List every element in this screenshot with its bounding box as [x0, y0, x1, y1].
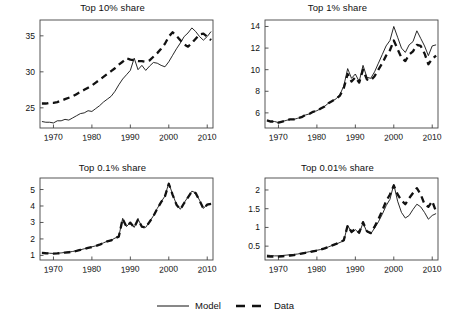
legend-entry-data: Data	[235, 301, 294, 311]
x-tick-label: 1970	[43, 131, 63, 142]
panel-top-1-share: Top 1% share 197019801990200020106810121…	[225, 0, 450, 160]
legend-label: Model	[195, 301, 221, 311]
y-tick-label: 25	[26, 103, 36, 113]
y-tick-label: 2	[30, 234, 35, 244]
series-data	[42, 32, 211, 103]
legend-swatch-solid	[156, 301, 190, 311]
series-data	[267, 185, 436, 256]
plot-frame	[265, 20, 438, 128]
y-tick-label: 1	[255, 222, 260, 232]
x-tick-label: 2000	[384, 131, 404, 142]
x-tick-label: 1980	[82, 131, 102, 142]
plot-frame	[40, 20, 213, 128]
y-tick-label: 12	[251, 43, 261, 53]
x-tick-label: 1990	[120, 131, 140, 142]
plot-frame	[265, 178, 438, 260]
y-tick-label: 1	[30, 250, 35, 260]
x-tick-label: 2010	[422, 263, 442, 274]
x-tick-label: 2000	[384, 263, 404, 274]
legend-entry-model: Model	[156, 301, 221, 311]
panel-top-01-share: Top 0.1% share 1970198019902000201012345	[0, 160, 225, 290]
plot-svg: 1970198019902000201012345	[0, 160, 225, 290]
x-tick-label: 1980	[307, 131, 327, 142]
x-tick-label: 1970	[268, 263, 288, 274]
series-model	[267, 26, 436, 122]
x-tick-label: 1990	[120, 263, 140, 274]
x-tick-label: 2000	[159, 263, 179, 274]
y-tick-label: 5	[30, 185, 35, 195]
y-tick-label: 2	[255, 185, 260, 195]
y-tick-label: 6	[255, 108, 260, 118]
x-tick-label: 2010	[422, 131, 442, 142]
plot-frame	[40, 178, 213, 260]
y-tick-label: 8	[255, 86, 260, 96]
series-model	[42, 28, 211, 123]
y-tick-label: 30	[26, 67, 36, 77]
panel-grid: Top 10% share 19701980199020002010253035…	[0, 0, 450, 290]
x-tick-label: 1990	[345, 131, 365, 142]
series-model	[42, 183, 211, 253]
panel-top-001-share: Top 0.01% share 197019801990200020100.51…	[225, 160, 450, 290]
plot-svg: 197019801990200020100.511.52	[225, 160, 450, 290]
x-tick-label: 1980	[307, 263, 327, 274]
legend-label: Data	[274, 301, 294, 311]
x-tick-label: 1970	[43, 263, 63, 274]
y-tick-label: 4	[30, 201, 35, 211]
x-tick-label: 1990	[345, 263, 365, 274]
plot-svg: 19701980199020002010253035	[0, 0, 225, 160]
panel-plot: 1970198019902000201012345	[0, 160, 225, 294]
x-tick-label: 1980	[82, 263, 102, 274]
plot-svg: 1970198019902000201068101214	[225, 0, 450, 160]
y-tick-label: 3	[30, 217, 35, 227]
x-tick-label: 2010	[197, 131, 217, 142]
x-tick-label: 1970	[268, 131, 288, 142]
series-data	[267, 41, 436, 123]
y-tick-label: 1.5	[248, 204, 260, 214]
panel-plot: 1970198019902000201068101214	[225, 0, 450, 164]
legend-swatch-dashed	[235, 301, 269, 311]
y-tick-label: 10	[251, 65, 261, 75]
panel-plot: 19701980199020002010253035	[0, 0, 225, 164]
panel-top-10-share: Top 10% share 19701980199020002010253035	[0, 0, 225, 160]
x-tick-label: 2000	[159, 131, 179, 142]
y-tick-label: 35	[26, 31, 36, 41]
y-tick-label: 14	[251, 21, 261, 31]
y-tick-label: 0.5	[248, 241, 260, 251]
chart-legend: Model Data	[0, 301, 450, 311]
series-data	[42, 184, 211, 254]
panel-plot: 197019801990200020100.511.52	[225, 160, 450, 294]
figure-top-income-shares: Top 10% share 19701980199020002010253035…	[0, 0, 450, 325]
x-tick-label: 2010	[197, 263, 217, 274]
